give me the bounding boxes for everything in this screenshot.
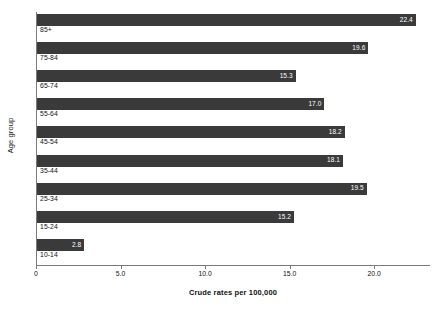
bar: 15.2 xyxy=(37,211,294,223)
x-axis-line xyxy=(36,265,430,266)
bar-value-label: 17.0 xyxy=(308,101,324,108)
bar: 2.8 xyxy=(37,239,84,251)
x-tick-label: 10.0 xyxy=(198,271,211,278)
x-tick xyxy=(205,265,206,269)
bar: 19.5 xyxy=(37,183,367,195)
bar: 18.1 xyxy=(37,155,343,167)
bar: 15.3 xyxy=(37,70,296,82)
bar: 19.6 xyxy=(37,42,368,54)
plot-area: 22.485+19.675-8415.365-7417.055-6418.245… xyxy=(36,12,430,265)
category-label: 75-84 xyxy=(40,55,58,62)
y-axis-title-text: Age group xyxy=(7,117,16,153)
category-label: 25-34 xyxy=(40,196,58,203)
x-axis-title: Crude rates per 100,000 xyxy=(36,288,430,297)
x-tick xyxy=(290,265,291,269)
category-label: 55-64 xyxy=(40,111,58,118)
x-tick xyxy=(36,265,37,269)
bar-value-label: 19.6 xyxy=(352,45,368,52)
bar-chart: Age group 22.485+19.675-8415.365-7417.05… xyxy=(0,0,444,313)
bar-value-label: 15.3 xyxy=(280,73,296,80)
x-tick-label: 5.0 xyxy=(116,271,125,278)
category-label: 45-54 xyxy=(40,139,58,146)
bar-value-label: 18.2 xyxy=(329,129,345,136)
x-tick xyxy=(374,265,375,269)
bar-value-label: 18.1 xyxy=(327,157,343,164)
bar-value-label: 19.5 xyxy=(351,185,367,192)
x-tick-label: 0 xyxy=(34,271,38,278)
bar: 22.4 xyxy=(37,14,416,26)
bar: 18.2 xyxy=(37,126,345,138)
category-label: 15-24 xyxy=(40,224,58,231)
category-label: 65-74 xyxy=(40,83,58,90)
x-tick-label: 20.0 xyxy=(368,271,381,278)
category-label: 10-14 xyxy=(40,252,58,259)
y-axis-title: Age group xyxy=(0,0,22,270)
x-tick xyxy=(121,265,122,269)
category-label: 85+ xyxy=(40,27,52,34)
bar: 17.0 xyxy=(37,98,324,110)
x-tick-label: 15.0 xyxy=(283,271,296,278)
category-label: 35-44 xyxy=(40,168,58,175)
bar-value-label: 22.4 xyxy=(400,17,416,24)
bar-value-label: 2.8 xyxy=(72,242,84,249)
bar-value-label: 15.2 xyxy=(278,214,294,221)
